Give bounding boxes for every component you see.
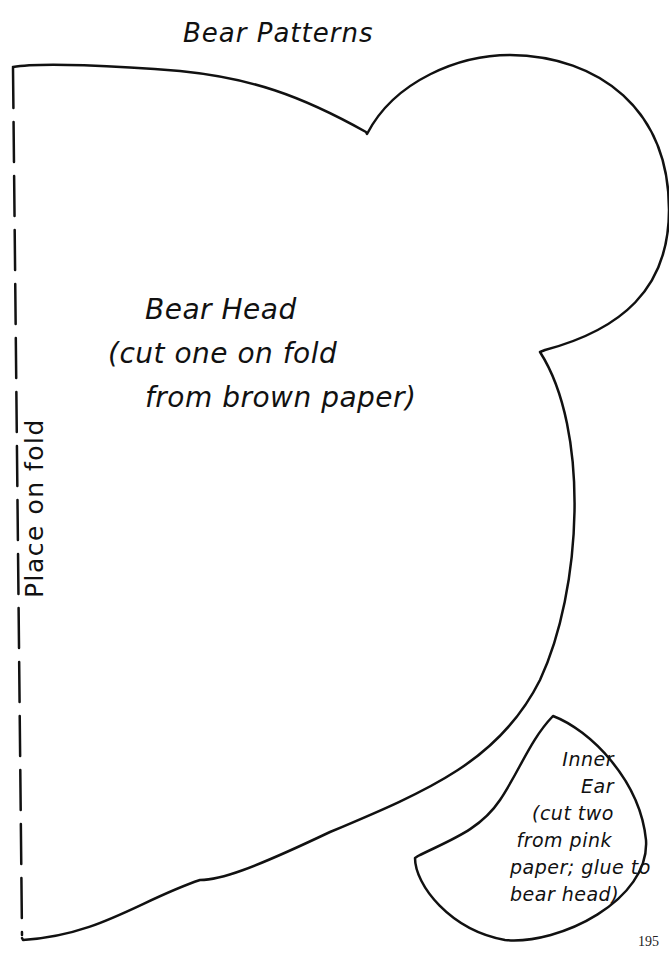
inner-ear-instruction-line: from pink	[510, 827, 620, 854]
inner-ear-title: Ear	[510, 773, 620, 800]
inner-ear-instruction-line: (cut two	[510, 800, 620, 827]
bear-head-instruction-line: from brown paper)	[108, 376, 417, 420]
inner-ear-instructions: Inner Ear (cut two from pink paper; glue…	[510, 746, 620, 908]
inner-ear-title: Inner	[510, 746, 620, 773]
page-number: 195	[638, 934, 659, 950]
bear-head-instruction-line: (cut one on fold	[108, 332, 417, 376]
inner-ear-instruction-line: bear head)	[510, 881, 620, 908]
inner-ear-instruction-line: paper; glue to	[510, 854, 624, 881]
pattern-page: Bear Patterns Bear Head (cut one on fold…	[0, 0, 669, 953]
page-title: Bear Patterns	[183, 18, 373, 48]
fold-instruction: Place on fold	[20, 418, 49, 598]
bear-head-title: Bear Head	[108, 288, 417, 332]
bear-head-instructions: Bear Head (cut one on fold from brown pa…	[108, 288, 417, 420]
